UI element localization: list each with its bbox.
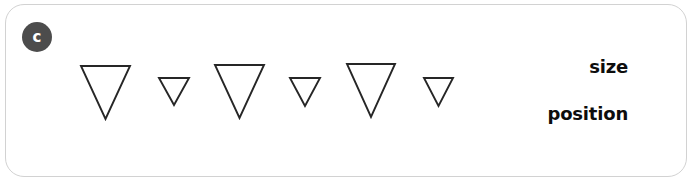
panel-container: [5, 4, 687, 177]
figure-panel-c: c size position: [0, 0, 695, 183]
label-position: position: [548, 103, 629, 124]
label-size: size: [589, 56, 628, 77]
panel-badge-c: c: [22, 22, 52, 52]
